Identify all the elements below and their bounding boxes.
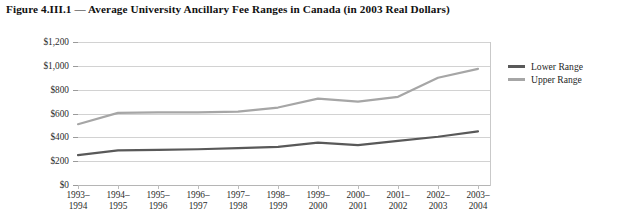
y-axis-label: $1,200 [11, 37, 69, 47]
y-axis-tick [73, 114, 78, 115]
x-axis-label-line2: 2004 [455, 201, 501, 212]
x-axis-tick [438, 185, 439, 189]
y-axis-label: $1,000 [11, 61, 69, 71]
y-axis-label: $200 [11, 156, 69, 166]
y-axis-label: $0 [11, 180, 69, 190]
legend-label: Upper Range [531, 74, 582, 85]
x-axis-tick [238, 185, 239, 189]
y-axis-tick [73, 161, 78, 162]
x-axis-label: 2003–2004 [455, 190, 501, 212]
legend-swatch-icon [508, 78, 525, 81]
legend-item[interactable]: Lower Range [508, 60, 616, 72]
series-line-lower-range [78, 131, 478, 155]
y-axis-label: $800 [11, 85, 69, 95]
x-axis-tick [198, 185, 199, 189]
series-layer [0, 0, 619, 221]
x-axis-tick [158, 185, 159, 189]
y-axis-tick [73, 137, 78, 138]
x-axis-tick [318, 185, 319, 189]
chart-canvas: Lower RangeUpper Range $1,200$1,000$800$… [0, 0, 619, 221]
y-axis-tick [73, 90, 78, 91]
y-axis-label: $600 [11, 109, 69, 119]
legend-swatch-icon [508, 65, 525, 68]
x-axis-tick [278, 185, 279, 189]
x-axis-tick [358, 185, 359, 189]
x-axis-tick [398, 185, 399, 189]
legend-label: Lower Range [531, 61, 583, 72]
x-axis-tick [78, 185, 79, 189]
y-axis-label: $400 [11, 132, 69, 142]
x-axis-tick [478, 185, 479, 189]
series-line-upper-range [78, 69, 478, 124]
legend: Lower RangeUpper Range [508, 60, 616, 86]
x-axis-label-line1: 2003– [455, 190, 501, 201]
y-axis-tick [73, 42, 78, 43]
legend-item[interactable]: Upper Range [508, 73, 616, 85]
x-axis-tick [118, 185, 119, 189]
y-axis-tick [73, 66, 78, 67]
